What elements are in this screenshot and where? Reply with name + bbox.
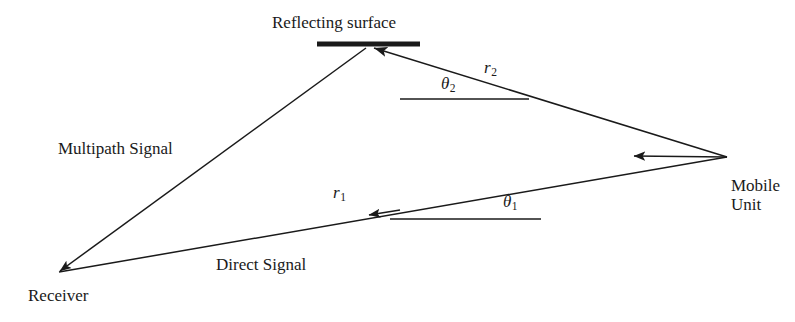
theta2-symbol: θ (441, 74, 449, 93)
multipath-geometry-figure: Reflecting surface Multipath Signal Dire… (0, 0, 795, 322)
r1-symbol: r (333, 183, 340, 202)
theta2-label: θ2 (441, 74, 456, 95)
direct-signal-label: Direct Signal (216, 255, 306, 274)
receiver-label: Receiver (28, 286, 88, 305)
diagram-canvas (0, 0, 795, 322)
r2-symbol: r (484, 58, 491, 77)
r2-label: r2 (484, 58, 497, 79)
mobile-unit-direction-arrow (634, 156, 727, 157)
mobile-unit-label-line2: Unit (731, 195, 780, 214)
theta2-subscript: 2 (450, 82, 456, 94)
mobile-unit-label: Mobile Unit (731, 176, 780, 214)
direct-signal-ray-r1 (59, 157, 727, 272)
mobile-unit-label-line1: Mobile (731, 176, 780, 195)
reflected-ray-multipath (60, 48, 366, 271)
reflecting-surface-label: Reflecting surface (272, 13, 396, 32)
incident-ray-r2 (374, 48, 727, 157)
multipath-signal-label: Multipath Signal (58, 139, 173, 158)
r1-subscript: 1 (340, 191, 346, 203)
theta1-symbol: θ (503, 192, 511, 211)
theta1-subscript: 1 (512, 200, 518, 212)
r1-label: r1 (333, 183, 346, 204)
theta1-label: θ1 (503, 192, 518, 213)
r2-subscript: 2 (491, 66, 497, 78)
